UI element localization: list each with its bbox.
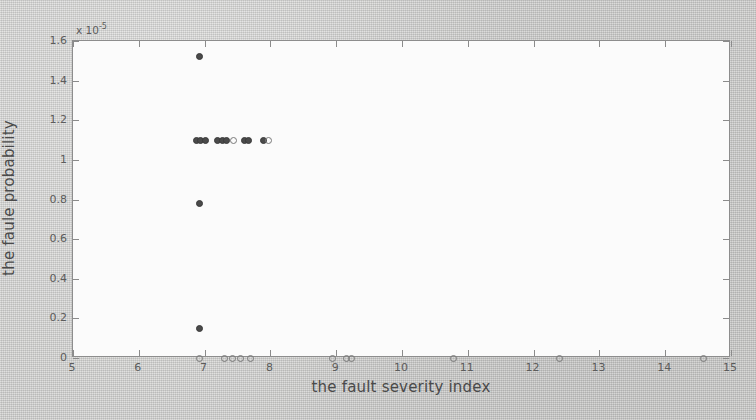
- y-tick-mark-right: [723, 239, 729, 240]
- x-tick-label: 9: [332, 361, 339, 374]
- y-tick-mark: [73, 120, 79, 121]
- x-tick-mark-top: [205, 41, 206, 47]
- y-tick-mark-right: [723, 41, 729, 42]
- y-axis-title: the faule probability: [0, 120, 18, 276]
- scatter-point: [265, 137, 272, 144]
- x-tick-label: 6: [134, 361, 141, 374]
- y-tick-mark-right: [723, 279, 729, 280]
- y-tick-label: 0.2: [50, 311, 68, 324]
- scatter-point: [348, 355, 355, 362]
- x-tick-mark: [665, 350, 666, 356]
- x-tick-mark-top: [731, 41, 732, 47]
- y-tick-label: 1.4: [50, 73, 68, 86]
- y-axis-exponent-base: x 10: [76, 24, 99, 36]
- scatter-point: [229, 355, 236, 362]
- y-tick-label: 1.2: [50, 113, 68, 126]
- scatter-point: [237, 355, 244, 362]
- x-tick-label: 14: [657, 361, 671, 374]
- y-tick-mark-right: [723, 318, 729, 319]
- scatter-point: [196, 53, 203, 60]
- scatter-point: [196, 325, 203, 332]
- x-tick-label: 10: [394, 361, 408, 374]
- y-tick-mark: [73, 200, 79, 201]
- x-tick-label: 12: [526, 361, 540, 374]
- y-tick-mark: [73, 279, 79, 280]
- y-tick-mark: [73, 160, 79, 161]
- y-tick-label: 0: [60, 351, 67, 364]
- x-tick-mark-top: [599, 41, 600, 47]
- scatter-point: [230, 137, 237, 144]
- scatter-point: [196, 200, 203, 207]
- x-tick-mark: [270, 350, 271, 356]
- x-tick-label: 15: [723, 361, 737, 374]
- x-tick-mark-top: [139, 41, 140, 47]
- x-tick-label: 11: [460, 361, 474, 374]
- y-tick-mark-right: [723, 160, 729, 161]
- x-tick-label: 8: [266, 361, 273, 374]
- scatter-point: [221, 355, 228, 362]
- y-axis-exponent-label: x 10-5: [76, 22, 107, 36]
- y-tick-label: 0.6: [50, 232, 68, 245]
- y-tick-label: 1.6: [50, 34, 68, 47]
- x-tick-label: 5: [69, 361, 76, 374]
- y-tick-label: 0.8: [50, 192, 68, 205]
- y-tick-label: 0.4: [50, 271, 68, 284]
- x-tick-mark-top: [468, 41, 469, 47]
- y-tick-mark: [73, 81, 79, 82]
- y-tick-mark: [73, 358, 79, 359]
- x-tick-mark: [599, 350, 600, 356]
- x-tick-mark: [73, 350, 74, 356]
- x-tick-mark: [731, 350, 732, 356]
- plot-area: [72, 40, 730, 357]
- scatter-point: [202, 137, 209, 144]
- y-tick-label: 1: [60, 152, 67, 165]
- x-tick-mark-top: [534, 41, 535, 47]
- x-tick-mark-top: [402, 41, 403, 47]
- x-tick-mark: [336, 350, 337, 356]
- x-tick-mark: [534, 350, 535, 356]
- y-axis-exponent-power: -5: [99, 22, 107, 31]
- y-tick-mark: [73, 239, 79, 240]
- x-tick-mark: [205, 350, 206, 356]
- x-tick-label: 13: [591, 361, 605, 374]
- scatter-plot-figure: x 10-5 56789101112131415 00.20.40.60.811…: [0, 0, 756, 420]
- x-tick-label: 7: [200, 361, 207, 374]
- scatter-point: [245, 137, 252, 144]
- x-tick-mark-top: [270, 41, 271, 47]
- y-tick-mark: [73, 41, 79, 42]
- x-tick-mark: [468, 350, 469, 356]
- y-tick-mark-right: [723, 200, 729, 201]
- y-tick-mark-right: [723, 120, 729, 121]
- y-tick-mark-right: [723, 81, 729, 82]
- y-tick-mark: [73, 318, 79, 319]
- x-tick-mark: [402, 350, 403, 356]
- x-axis-title: the fault severity index: [72, 378, 730, 396]
- scatter-point: [700, 355, 707, 362]
- scatter-point: [556, 355, 563, 362]
- x-tick-mark: [139, 350, 140, 356]
- x-tick-mark-top: [336, 41, 337, 47]
- x-tick-mark-top: [665, 41, 666, 47]
- scatter-point: [247, 355, 254, 362]
- scatter-point: [450, 355, 457, 362]
- y-tick-mark-right: [723, 358, 729, 359]
